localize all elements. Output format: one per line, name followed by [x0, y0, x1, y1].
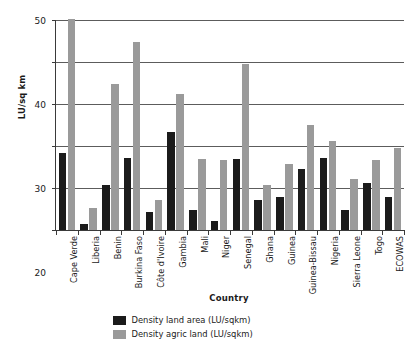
- x-tick-mark: [100, 230, 101, 235]
- x-tick-mark: [56, 230, 57, 235]
- x-tick-mark: [187, 230, 188, 235]
- legend-swatch-icon: [113, 330, 126, 339]
- legend-row[interactable]: Density agric land (LU/sqkm): [0, 327, 415, 341]
- bar-group: [382, 20, 404, 230]
- x-tick-label-text: Cape Verde: [69, 236, 79, 283]
- legend-label: Density land area (LU/sqkm): [132, 315, 251, 325]
- bar-group: [339, 20, 361, 230]
- x-tick-label: Burkina Faso: [134, 236, 144, 288]
- x-tick-label: Nigeria: [330, 236, 340, 265]
- bar-density-land-area: [211, 221, 219, 230]
- legend-swatch-icon: [113, 316, 126, 325]
- bar-density-agric-land: [111, 84, 119, 230]
- bar-density-agric-land: [329, 141, 337, 230]
- bar-density-land-area: [385, 197, 393, 230]
- x-tick-mark: [230, 230, 231, 235]
- x-tick-label-text: Burkina Faso: [134, 236, 144, 288]
- bar-density-agric-land: [155, 200, 163, 230]
- y-tick-label: 50: [35, 16, 46, 26]
- x-tick-label: Ghana: [265, 236, 275, 263]
- bar-density-land-area: [233, 159, 241, 230]
- x-tick-label-text: Senegal: [243, 236, 253, 269]
- x-tick-label: Niger: [221, 236, 231, 258]
- bars-layer: [56, 20, 404, 230]
- x-tick-label: Senegal: [243, 236, 253, 269]
- x-tick-mark: [165, 230, 166, 235]
- x-tick-mark: [274, 230, 275, 235]
- bar-density-land-area: [102, 185, 110, 230]
- bar-group: [295, 20, 317, 230]
- bar-group: [100, 20, 122, 230]
- bar-chart: LU/sq km 01020304050 Cape VerdeLiberiaBe…: [0, 0, 415, 348]
- legend-item[interactable]: Density land area (LU/sqkm): [113, 315, 303, 325]
- x-tick-label-text: ECOWAS: [395, 236, 405, 272]
- x-tick-mark: [404, 230, 405, 235]
- x-tick-label-text: Gambia: [178, 236, 188, 268]
- bar-density-agric-land: [133, 42, 141, 230]
- bar-density-agric-land: [307, 125, 315, 230]
- x-tick-label-text: Guinea-Bissau: [308, 236, 318, 294]
- x-axis-title: Country: [55, 293, 403, 303]
- bar-group: [121, 20, 143, 230]
- x-tick-label: Liberia: [91, 236, 101, 264]
- x-tick-label-text: Côte d'Ivoire: [156, 236, 166, 288]
- bar-group: [361, 20, 383, 230]
- bar-density-land-area: [320, 158, 328, 230]
- x-tick-mark: [78, 230, 79, 235]
- x-tick-label-text: Liberia: [91, 236, 101, 264]
- bar-density-land-area: [363, 183, 371, 230]
- bar-density-land-area: [167, 132, 175, 230]
- bar-density-land-area: [59, 153, 67, 230]
- y-tick-label: 20: [35, 268, 46, 278]
- bar-density-agric-land: [176, 94, 184, 231]
- x-tick-label: Côte d'Ivoire: [156, 236, 166, 288]
- x-tick-label-text: Guinea: [287, 236, 297, 265]
- plot-area: 01020304050: [55, 20, 404, 231]
- bar-density-agric-land: [372, 160, 380, 230]
- x-axis-labels: Cape VerdeLiberiaBeninBurkina FasoCôte d…: [55, 236, 403, 294]
- bar-density-agric-land: [220, 160, 228, 230]
- bar-group: [252, 20, 274, 230]
- x-tick-label: Togo: [374, 236, 384, 255]
- y-tick-label: 30: [35, 184, 46, 194]
- x-tick-label-text: Sierra Leone: [352, 236, 362, 287]
- x-tick-label-text: Benin: [113, 236, 123, 259]
- x-tick-mark: [295, 230, 296, 235]
- bar-density-land-area: [276, 197, 284, 230]
- x-tick-label-text: Mali: [200, 236, 210, 253]
- bar-density-agric-land: [263, 185, 271, 230]
- x-tick-label: Mali: [200, 236, 210, 253]
- x-tick-mark: [121, 230, 122, 235]
- x-tick-label: Guinea: [287, 236, 297, 265]
- bar-density-agric-land: [285, 164, 293, 230]
- bar-density-agric-land: [242, 64, 250, 230]
- bar-density-agric-land: [89, 208, 97, 230]
- y-axis-title: LU/sq km: [17, 42, 27, 152]
- x-tick-label-text: Ghana: [265, 236, 275, 263]
- bar-density-land-area: [146, 212, 154, 230]
- legend-item[interactable]: Density agric land (LU/sqkm): [113, 329, 303, 339]
- bar-group: [143, 20, 165, 230]
- bar-group: [208, 20, 230, 230]
- x-tick-label: Benin: [113, 236, 123, 259]
- bar-group: [230, 20, 252, 230]
- bar-group: [56, 20, 78, 230]
- bar-density-agric-land: [198, 159, 206, 230]
- x-tick-label: Guinea-Bissau: [308, 236, 318, 294]
- x-tick-mark: [339, 230, 340, 235]
- x-tick-mark: [317, 230, 318, 235]
- bar-density-agric-land: [350, 179, 358, 230]
- legend-row[interactable]: Density land area (LU/sqkm): [0, 313, 415, 327]
- bar-density-land-area: [254, 200, 262, 230]
- bar-density-land-area: [189, 210, 197, 230]
- x-tick-label-text: Togo: [374, 236, 384, 255]
- bar-density-land-area: [298, 169, 306, 230]
- bar-density-land-area: [124, 158, 132, 230]
- bar-density-agric-land: [394, 148, 402, 230]
- x-tick-label: Cape Verde: [69, 236, 79, 283]
- x-tick-label-text: Niger: [221, 236, 231, 258]
- bar-group: [165, 20, 187, 230]
- x-tick-label: Sierra Leone: [352, 236, 362, 287]
- bar-group: [78, 20, 100, 230]
- y-tick-label: 40: [35, 100, 46, 110]
